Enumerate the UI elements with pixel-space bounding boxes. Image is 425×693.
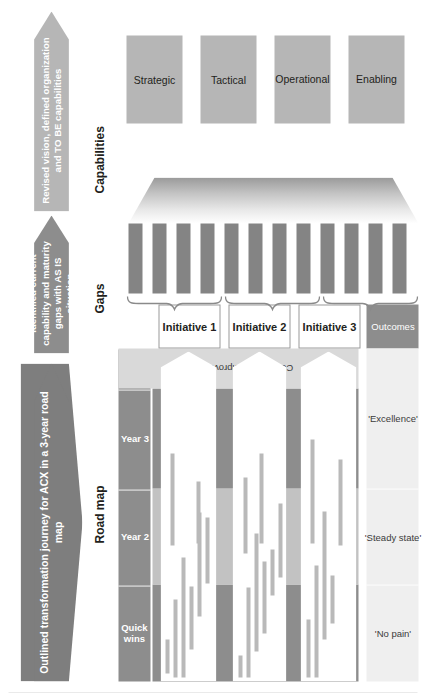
heading-capabilities: Capabilities: [92, 126, 106, 193]
gap-bar: [368, 223, 382, 293]
gap-bar: [272, 223, 286, 293]
phase-label: Year 2: [120, 532, 148, 543]
task-bar: [322, 511, 326, 639]
task-bar: [330, 575, 334, 623]
capability-label: Enabling: [356, 73, 397, 85]
capability-box-strategic[interactable]: Strategic: [126, 35, 182, 123]
phase-label: Year 3: [120, 434, 148, 445]
capabilities-arrow: Revised vision, defined organization and…: [20, 11, 82, 211]
initiative-label: Initiative 2: [232, 320, 286, 332]
task-bar: [165, 639, 169, 673]
phase-header-quick-wins: Quick wins: [118, 585, 150, 681]
task-bar: [306, 619, 310, 677]
gap-bar: [224, 223, 238, 293]
roadmap-arrow: Outlined transformation journey for ACX …: [20, 363, 82, 681]
brace-icon: [126, 295, 222, 311]
task-bar: [189, 586, 193, 649]
gap-bar: [320, 223, 334, 293]
gaps-gradient-wedge: [128, 177, 418, 223]
task-bar: [205, 517, 209, 583]
outcomes-title: Outcomes: [370, 321, 413, 332]
brace-icon: [224, 295, 320, 311]
diagram-canvas: Outlined transformation journey for ACX …: [0, 0, 425, 693]
gap-bar: [200, 223, 214, 293]
task-bar: [170, 453, 174, 545]
capability-box-enabling[interactable]: Enabling: [348, 35, 404, 123]
task-bar: [196, 481, 200, 543]
task-bar: [270, 549, 274, 595]
task-bar: [314, 565, 318, 677]
phase-label: Quick wins: [121, 623, 147, 645]
initiative-brace-1: [126, 295, 222, 311]
outcome-excellence: 'Excellence': [366, 348, 418, 488]
phase-header-year-3: Year 3: [118, 389, 150, 489]
heading-road-map: Road map: [92, 485, 106, 543]
outcome-no-pain: 'No pain': [366, 584, 418, 681]
initiative-brace-2: [224, 295, 320, 311]
task-bar: [243, 477, 247, 553]
gap-bar: [128, 223, 142, 293]
initiative-lane-1: [160, 351, 216, 681]
gap-bar: [248, 223, 262, 293]
heading-gaps: Gaps: [92, 283, 106, 313]
initiative-brace-3: [322, 295, 418, 311]
outcome-label: 'No pain': [374, 628, 410, 639]
task-bar: [338, 459, 342, 545]
brace-icon: [322, 295, 418, 311]
initiative-label: Initiative 1: [162, 320, 216, 332]
task-bar: [173, 599, 177, 677]
capability-box-operational[interactable]: Operational: [274, 35, 330, 123]
task-bar: [259, 453, 263, 543]
task-bar: [238, 655, 242, 677]
initiative-label: Initiative 3: [302, 320, 356, 332]
roadmap-arrow-label: Outlined transformation journey for ACX …: [20, 363, 82, 681]
capability-label: Operational: [275, 73, 329, 85]
capability-label: Strategic: [133, 73, 174, 85]
capability-box-tactical[interactable]: Tactical: [200, 35, 256, 123]
outcome-label: 'Excellence': [367, 413, 417, 424]
gap-bar: [176, 223, 190, 293]
gap-bar: [152, 223, 166, 293]
gap-bar: [392, 223, 406, 293]
task-bar: [181, 557, 185, 677]
outcome-steady-state: 'Steady state': [366, 488, 418, 584]
capability-label: Tactical: [210, 73, 245, 85]
task-bar: [246, 587, 250, 677]
task-bar: [254, 533, 258, 651]
outcome-label: 'Steady state': [364, 531, 420, 542]
gaps-arrow: Identified current capability and maturi…: [20, 215, 82, 353]
gaps-arrow-label: Identified current capability and maturi…: [20, 215, 82, 353]
task-bar: [262, 561, 266, 633]
capabilities-arrow-label: Revised vision, defined organization and…: [20, 11, 82, 211]
gap-bar: [296, 223, 310, 293]
task-bar: [278, 503, 282, 577]
task-bar: [310, 439, 314, 543]
phase-header-year-2: Year 2: [118, 489, 150, 585]
gap-bar: [344, 223, 358, 293]
